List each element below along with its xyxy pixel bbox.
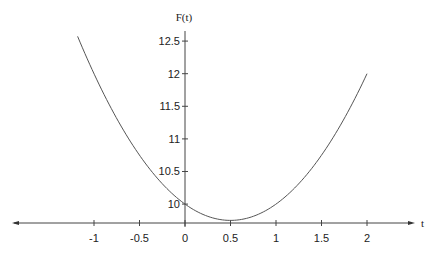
x-tick-label: 1.5 <box>314 232 329 244</box>
y-tick-label: 11.5 <box>159 100 180 112</box>
x-tick-label: 2 <box>364 232 370 244</box>
function-curve <box>78 36 367 220</box>
arrow-right-icon <box>408 221 415 225</box>
y-tick-label: 11 <box>169 133 180 145</box>
y-axis-title: F(t) <box>176 11 193 24</box>
y-tick-label: 12.5 <box>159 35 180 47</box>
x-axis-title: t <box>421 217 424 229</box>
x-axis-ticks: -1-0.500.511.52 <box>89 220 370 244</box>
y-tick-label: 12 <box>168 68 180 80</box>
y-tick-label: 10.5 <box>159 165 180 177</box>
x-axis <box>12 221 415 225</box>
x-tick-label: 0 <box>182 232 188 244</box>
x-tick-label: 0.5 <box>223 232 238 244</box>
x-tick-label: -1 <box>89 232 99 244</box>
function-plot: -1-0.500.511.52 1010.51111.51212.5 F(t) … <box>0 0 434 254</box>
x-tick-label: -0.5 <box>130 232 149 244</box>
arrow-left-icon <box>12 221 19 225</box>
y-tick-label: 10 <box>168 198 180 210</box>
x-tick-label: 1 <box>273 232 279 244</box>
